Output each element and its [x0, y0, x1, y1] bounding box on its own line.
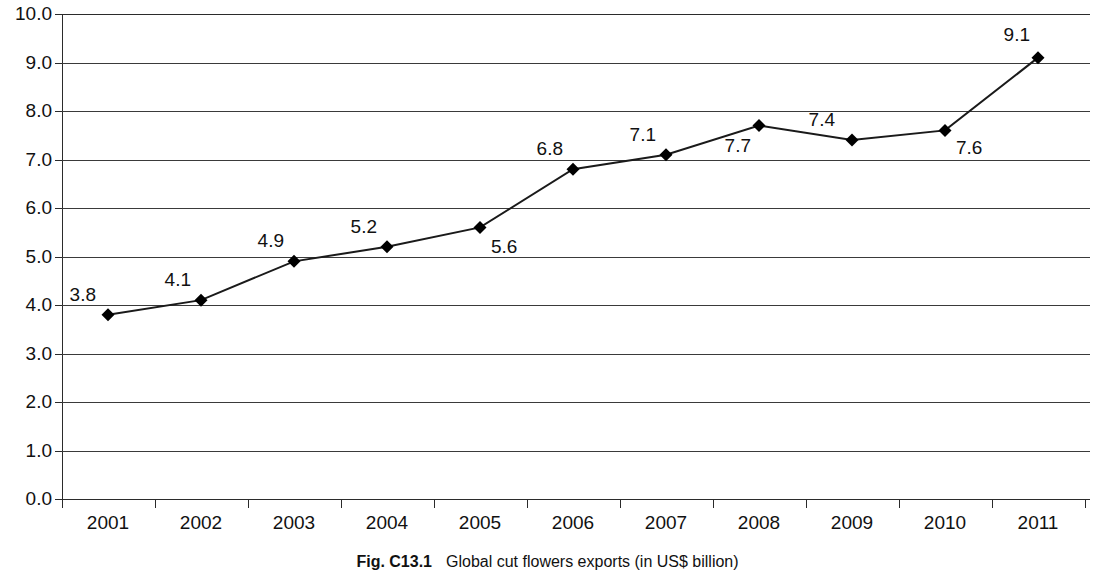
x-tick-label: 2001: [61, 512, 155, 533]
data-point-label: 7.1: [622, 125, 656, 145]
y-tick-label: 9.0: [4, 53, 52, 72]
figure-caption-text: Global cut flowers exports (in US$ billi…: [446, 553, 739, 570]
data-point-label: 6.8: [529, 139, 563, 159]
x-tick-mark: [248, 500, 249, 508]
y-tick-label: 7.0: [4, 150, 52, 169]
x-tick-label: 2004: [340, 512, 434, 533]
y-tick-label: 10.0: [4, 4, 52, 23]
x-tick-mark: [899, 500, 900, 508]
data-point-label: 5.6: [491, 237, 517, 257]
gridline: [62, 499, 1090, 500]
figure-caption: Fig. C13.1Global cut flowers exports (in…: [0, 552, 1095, 572]
data-point-label: 4.9: [250, 231, 284, 251]
data-point-label: 3.8: [62, 285, 96, 305]
gridline: [62, 111, 1090, 112]
data-point-label: 5.2: [343, 217, 377, 237]
x-tick-mark: [1085, 500, 1086, 508]
gridline: [62, 208, 1090, 209]
x-tick-label: 2011: [991, 512, 1085, 533]
plot-area: [62, 14, 1090, 499]
x-tick-mark: [713, 500, 714, 508]
data-point-label: 7.4: [801, 110, 835, 130]
gridline: [62, 257, 1090, 258]
x-tick-mark: [434, 500, 435, 508]
data-point-label: 4.1: [157, 270, 191, 290]
x-tick-mark: [620, 500, 621, 508]
gridline: [62, 354, 1090, 355]
x-tick-mark: [155, 500, 156, 508]
y-tick-label: 0.0: [4, 489, 52, 508]
x-tick-label: 2005: [433, 512, 527, 533]
x-tick-mark: [992, 500, 993, 508]
x-tick-mark: [62, 500, 63, 508]
gridline: [62, 63, 1090, 64]
x-tick-mark: [341, 500, 342, 508]
x-tick-label: 2007: [619, 512, 713, 533]
data-point-label: 7.6: [956, 138, 982, 158]
y-tick-label: 1.0: [4, 441, 52, 460]
x-tick-label: 2003: [247, 512, 341, 533]
x-tick-label: 2010: [898, 512, 992, 533]
gridline: [62, 160, 1090, 161]
data-point-label: 7.7: [717, 136, 751, 156]
gridline: [62, 305, 1090, 306]
x-tick-mark: [806, 500, 807, 508]
figure-chart: 10.09.08.07.06.05.04.03.02.01.00.0 20012…: [0, 0, 1095, 573]
figure-number: Fig. C13.1: [356, 553, 432, 570]
y-tick-label: 6.0: [4, 198, 52, 217]
x-tick-label: 2006: [526, 512, 620, 533]
x-tick-label: 2008: [712, 512, 806, 533]
y-tick-label: 3.0: [4, 344, 52, 363]
data-point-label: 9.1: [996, 25, 1030, 45]
y-tick-label: 4.0: [4, 295, 52, 314]
gridline: [62, 451, 1090, 452]
x-tick-label: 2009: [805, 512, 899, 533]
gridline: [62, 402, 1090, 403]
y-tick-label: 2.0: [4, 392, 52, 411]
y-tick-label: 8.0: [4, 101, 52, 120]
x-tick-label: 2002: [154, 512, 248, 533]
gridline: [62, 14, 1090, 15]
x-tick-mark: [527, 500, 528, 508]
y-tick-label: 5.0: [4, 247, 52, 266]
